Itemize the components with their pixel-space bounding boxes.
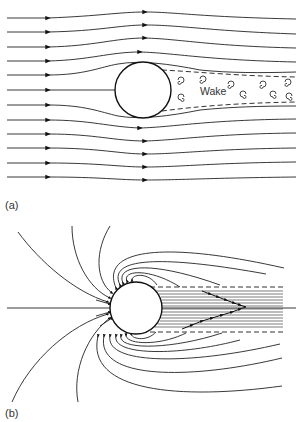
- panel-a-label: (a): [5, 199, 18, 211]
- panel-a-sphere: [115, 62, 171, 118]
- panel-a-wake-boundary: [162, 70, 296, 111]
- diagram-canvas: [0, 0, 304, 422]
- wake-label: Wake: [200, 85, 226, 97]
- panel-b-sphere: [110, 282, 162, 334]
- panel-b-label: (b): [5, 407, 18, 419]
- panel-a-wake-eddies: [178, 76, 292, 101]
- panel-b-shadow-hatching: [155, 291, 283, 327]
